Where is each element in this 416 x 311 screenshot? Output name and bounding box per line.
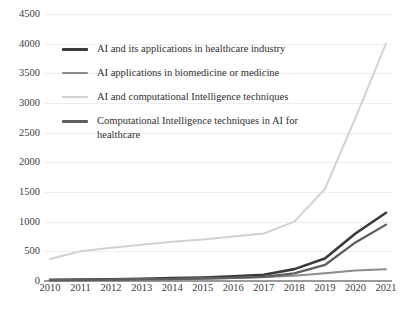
legend-item: AI and its applications in healthcare in… bbox=[62, 42, 320, 55]
legend-item: AI and computational Intelligence techni… bbox=[62, 90, 320, 103]
line-chart: 050010001500200025003000350040004500 201… bbox=[0, 0, 416, 311]
x-axis: 2010201120122013201420152016201720182019… bbox=[44, 283, 392, 305]
legend-item: Computational Intelligence techniques in… bbox=[62, 114, 320, 140]
x-axis-tick-label: 2016 bbox=[223, 283, 244, 294]
gridline bbox=[44, 281, 392, 282]
legend-item-label: AI and its applications in healthcare in… bbox=[97, 42, 285, 55]
x-axis-tick-label: 2011 bbox=[70, 283, 91, 294]
y-axis-tick-label: 1000 bbox=[0, 216, 40, 227]
x-axis-tick-label: 2017 bbox=[253, 283, 274, 294]
y-axis-tick-label: 1500 bbox=[0, 187, 40, 198]
x-axis-tick-label: 2019 bbox=[314, 283, 335, 294]
x-axis-tick-label: 2014 bbox=[162, 283, 183, 294]
chart-legend: AI and its applications in healthcare in… bbox=[62, 42, 320, 152]
y-axis-tick-label: 500 bbox=[0, 246, 40, 257]
legend-color-swatch bbox=[62, 96, 88, 98]
y-axis-tick-label: 4000 bbox=[0, 38, 40, 49]
y-axis-tick-label: 3000 bbox=[0, 98, 40, 109]
y-axis-tick-label: 2000 bbox=[0, 157, 40, 168]
x-axis-tick-label: 2012 bbox=[101, 283, 122, 294]
legend-color-swatch bbox=[62, 72, 88, 74]
y-axis-tick-label: 0 bbox=[0, 276, 40, 287]
y-axis: 050010001500200025003000350040004500 bbox=[0, 0, 40, 311]
y-axis-tick-label: 2500 bbox=[0, 127, 40, 138]
series-line bbox=[50, 213, 386, 280]
y-axis-tick-label: 4500 bbox=[0, 9, 40, 20]
x-axis-tick-label: 2018 bbox=[284, 283, 305, 294]
legend-item-label: Computational Intelligence techniques in… bbox=[97, 114, 320, 140]
x-axis-tick-label: 2010 bbox=[40, 283, 61, 294]
y-axis-tick-label: 3500 bbox=[0, 68, 40, 79]
legend-color-swatch bbox=[62, 120, 88, 123]
legend-color-swatch bbox=[62, 48, 88, 51]
x-axis-tick-label: 2020 bbox=[345, 283, 366, 294]
x-axis-tick-label: 2021 bbox=[376, 283, 397, 294]
legend-item: AI applications in biomedicine or medici… bbox=[62, 66, 320, 79]
legend-item-label: AI applications in biomedicine or medici… bbox=[97, 66, 279, 79]
legend-item-label: AI and computational Intelligence techni… bbox=[97, 90, 288, 103]
x-axis-tick-label: 2013 bbox=[131, 283, 152, 294]
x-axis-tick-label: 2015 bbox=[192, 283, 213, 294]
